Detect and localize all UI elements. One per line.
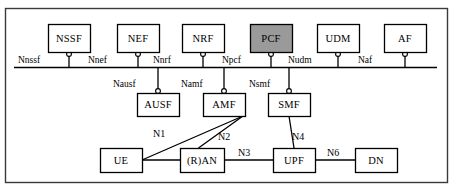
- nf-box-udm[interactable]: [318, 25, 360, 53]
- service-port-circle-smf: [287, 89, 292, 94]
- service-stub-connectors: [67, 52, 408, 94]
- nf-box-amf[interactable]: [204, 94, 246, 117]
- nf-box-nrf[interactable]: [183, 25, 225, 53]
- diagram-vector-layer: [0, 0, 452, 191]
- nf-box-smf[interactable]: [269, 94, 311, 117]
- link-n4: [289, 116, 294, 148]
- network-function-boxes: [49, 25, 427, 173]
- nf-box-ran[interactable]: [181, 149, 225, 173]
- service-port-circle-amf: [222, 89, 227, 94]
- reference-point-links: [142, 116, 355, 160]
- nf-box-upf[interactable]: [274, 149, 316, 173]
- nf-box-nef[interactable]: [118, 25, 160, 53]
- nf-box-dn[interactable]: [356, 149, 398, 173]
- service-port-circle-ausf: [156, 89, 161, 94]
- nf-box-af[interactable]: [385, 25, 427, 53]
- nf-box-ue[interactable]: [101, 149, 143, 173]
- nf-box-nssf[interactable]: [49, 25, 91, 53]
- architecture-diagram: NSSFNEFNRFPCFUDMAFAUSFAMFSMFUE(R)ANUPFDN…: [0, 0, 452, 191]
- nf-box-pcf[interactable]: [251, 25, 293, 53]
- nf-box-ausf[interactable]: [138, 94, 180, 117]
